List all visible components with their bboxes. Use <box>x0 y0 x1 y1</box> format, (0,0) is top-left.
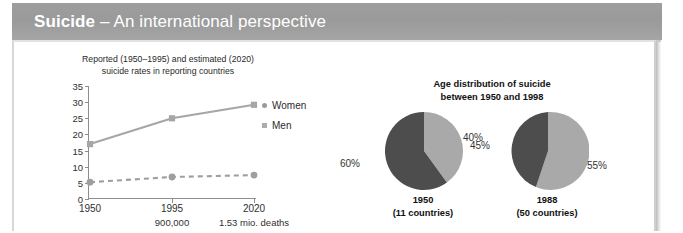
page-title-subtitle: – An international perspective <box>100 12 326 31</box>
pie-1950-label-60: 60% <box>340 158 360 169</box>
legend-label: Women <box>272 100 306 111</box>
x-tick-label: 1995 <box>161 203 183 214</box>
legend-circle-marker-icon <box>262 103 267 108</box>
series-women-marker <box>169 174 176 181</box>
y-tick-label: 35 <box>57 81 83 92</box>
figure-root: Suicide – An international perspective R… <box>0 0 683 233</box>
y-tick-label: 10 <box>57 161 83 172</box>
pie-1988-label-55: 55% <box>587 160 607 171</box>
legend-label: Men <box>272 120 291 131</box>
pie-1950-caption-year: 1950 <box>368 194 478 207</box>
y-tick-label: 15 <box>57 145 83 156</box>
pie-1988-label-45: 45% <box>470 140 490 151</box>
line-chart-series <box>88 86 263 202</box>
panel-right-shadow <box>656 42 661 231</box>
series-women-marker <box>251 172 258 179</box>
line-chart-title: Reported (1950–1995) and estimated (2020… <box>58 54 278 77</box>
content-panel: Reported (1950–1995) and estimated (2020… <box>12 40 656 231</box>
pie-1988-caption-year: 1988 <box>492 194 602 207</box>
legend-item-men: Men <box>262 118 336 133</box>
x-tick-label: 2020 <box>243 203 265 214</box>
x-tick-label: 1950 <box>79 203 101 214</box>
pie-1988-caption: 1988 (50 countries) <box>492 194 602 219</box>
page-title: Suicide – An international perspective <box>34 12 326 32</box>
series-men-line <box>90 105 254 144</box>
pie-charts-title-line2: between 1950 and 1998 <box>387 91 597 104</box>
line-chart-legend: Women Men <box>262 98 336 138</box>
series-men-marker <box>169 115 175 121</box>
pie-charts-title-line1: Age distribution of suicide <box>387 78 597 91</box>
line-chart-plot-area: 0 5 10 15 20 <box>88 86 256 199</box>
line-chart-title-line1: Reported (1950–1995) and estimated (2020… <box>58 54 278 66</box>
x-tick-sublabel: 1.53 mio. deaths <box>219 217 289 228</box>
y-tick-label: 5 <box>57 177 83 188</box>
pie-1950-caption-countries: (11 countries) <box>368 207 478 220</box>
line-chart: Reported (1950–1995) and estimated (2020… <box>50 54 340 229</box>
page-title-bold: Suicide <box>34 12 95 31</box>
x-tick-sublabel: 900,000 <box>155 217 189 228</box>
legend-item-women: Women <box>262 98 336 113</box>
y-tick-label: 20 <box>57 129 83 140</box>
line-chart-title-line2: suicide rates in reporting countries <box>58 66 278 78</box>
pie-1950-caption: 1950 (11 countries) <box>368 194 478 219</box>
y-tick-label: 25 <box>57 113 83 124</box>
y-tick-label: 30 <box>57 97 83 108</box>
pie-1950-svg <box>383 110 465 192</box>
series-men-marker <box>87 141 93 147</box>
pie-chart-group: Age distribution of suicide between 1950… <box>352 54 652 232</box>
pie-1988-svg <box>507 110 589 192</box>
series-women-marker <box>87 179 94 186</box>
header-bar: Suicide – An international perspective <box>12 3 662 40</box>
legend-square-marker-icon <box>262 123 267 128</box>
pie-charts-title: Age distribution of suicide between 1950… <box>387 78 597 103</box>
series-men-marker <box>251 102 257 108</box>
pie-1988-caption-countries: (50 countries) <box>492 207 602 220</box>
